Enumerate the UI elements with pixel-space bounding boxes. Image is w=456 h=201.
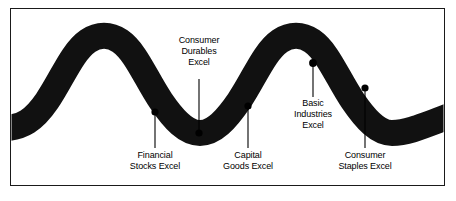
callout-financial-stocks: Financial Stocks Excel bbox=[130, 150, 180, 172]
callout-consumer-durables-line1: Consumer bbox=[179, 35, 220, 46]
callout-capital-goods: Capital Goods Excel bbox=[223, 150, 273, 172]
callout-consumer-staples-line2: Staples Excel bbox=[338, 161, 391, 172]
callout-basic-industries-line2: Industries bbox=[294, 109, 332, 120]
callout-financial-stocks-line1: Financial bbox=[130, 150, 180, 161]
callout-basic-industries-line1: Basic bbox=[294, 98, 332, 109]
callout-consumer-durables: Consumer Durables Excel bbox=[179, 35, 220, 69]
callout-consumer-staples: Consumer Staples Excel bbox=[338, 150, 391, 172]
callout-consumer-durables-line2: Durables bbox=[179, 46, 220, 57]
callout-capital-goods-line2: Goods Excel bbox=[223, 161, 273, 172]
callout-capital-goods-line1: Capital bbox=[223, 150, 273, 161]
callout-financial-stocks-line2: Stocks Excel bbox=[130, 161, 180, 172]
sector-rotation-diagram: Financial Stocks Excel Consumer Durables… bbox=[0, 0, 456, 201]
callout-basic-industries-line3: Excel bbox=[294, 120, 332, 131]
callout-basic-industries: Basic Industries Excel bbox=[294, 98, 332, 132]
callout-consumer-durables-line3: Excel bbox=[179, 57, 220, 68]
callout-consumer-staples-line1: Consumer bbox=[338, 150, 391, 161]
